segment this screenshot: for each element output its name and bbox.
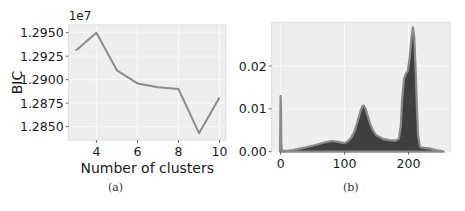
y-tick-label: 1.2950 bbox=[20, 25, 64, 40]
x-tick-label: 100 bbox=[333, 156, 357, 171]
y-tick-label: 0.01 bbox=[239, 101, 267, 116]
x-tick-label: 10 bbox=[212, 144, 228, 159]
x-tick-label: 4 bbox=[92, 144, 100, 159]
y-tick-label: 0.00 bbox=[239, 144, 267, 159]
y-axis-label: BIC bbox=[9, 71, 25, 95]
y-tick-label: 1.2875 bbox=[20, 96, 64, 111]
y-offset-label: 1e7 bbox=[69, 9, 92, 23]
x-tick-label: 0 bbox=[277, 156, 285, 171]
caption-a: (a) bbox=[108, 181, 123, 194]
bic-plot-area bbox=[69, 25, 226, 140]
x-tick-label: 8 bbox=[175, 144, 183, 159]
x-tick-label: 200 bbox=[397, 156, 421, 171]
y-tick-label: 0.02 bbox=[239, 59, 267, 74]
figure-canvas: 468101.28501.28751.29001.29251.29501e7Nu… bbox=[0, 0, 465, 211]
y-tick-label: 1.2900 bbox=[20, 72, 64, 87]
y-tick-label: 1.2850 bbox=[20, 119, 64, 134]
bic-line-chart: 468101.28501.28751.29001.29251.29501e7Nu… bbox=[9, 9, 228, 176]
x-tick-label: 6 bbox=[133, 144, 141, 159]
intensity-histogram-chart: 01002000.000.010.02 bbox=[239, 22, 450, 170]
y-tick-label: 1.2925 bbox=[20, 49, 64, 64]
x-axis-label: Number of clusters bbox=[80, 160, 214, 176]
caption-b: (b) bbox=[343, 181, 359, 194]
